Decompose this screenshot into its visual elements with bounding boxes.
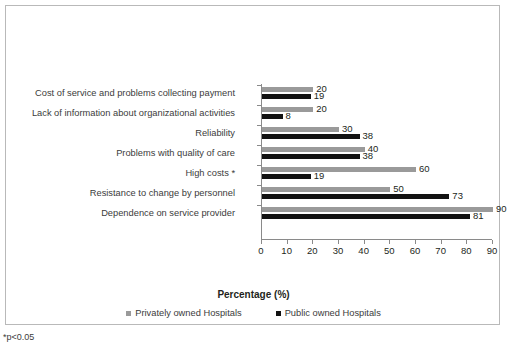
x-axis-tick-label: 70 xyxy=(435,245,446,256)
chart-category-row: Reliability3038 xyxy=(261,124,493,144)
bar-pub xyxy=(262,214,470,219)
bar-priv xyxy=(262,87,313,92)
y-axis-category-label: Dependence on service provider xyxy=(101,208,235,218)
y-axis-category-label: Lack of information about organizational… xyxy=(32,108,235,118)
significance-footnote: *p<0.05 xyxy=(3,332,34,342)
bar-pub xyxy=(262,194,449,199)
x-axis-tick xyxy=(287,240,288,244)
x-axis-tick xyxy=(261,240,262,244)
x-axis-tick xyxy=(415,240,416,244)
legend-swatch-icon-privately-owned xyxy=(126,311,131,316)
y-axis-category-label: Resistance to change by personnel xyxy=(90,188,235,198)
plot-area: 0102030405060708090 Cost of service and … xyxy=(261,84,493,240)
chart-category-row: Lack of information about organizational… xyxy=(261,104,493,124)
x-axis-tick-label: 40 xyxy=(358,245,369,256)
bar-pub xyxy=(262,174,311,179)
x-axis-tick xyxy=(312,240,313,244)
x-axis-title: Percentage (%) xyxy=(6,289,501,300)
y-axis-category-label: Reliability xyxy=(195,128,235,138)
x-axis-tick-label: 80 xyxy=(461,245,472,256)
x-axis-tick xyxy=(492,240,493,244)
bar-value-label: 50 xyxy=(393,183,404,194)
bar-pub xyxy=(262,134,360,139)
bar-pub xyxy=(262,154,360,159)
x-axis-tick-label: 0 xyxy=(258,245,263,256)
chart-category-row: Cost of service and problems collecting … xyxy=(261,84,493,104)
x-axis-tick xyxy=(338,240,339,244)
bar-value-label: 20 xyxy=(316,103,327,114)
x-axis-tick-label: 30 xyxy=(333,245,344,256)
x-axis-tick xyxy=(389,240,390,244)
x-axis-tick-label: 60 xyxy=(410,245,421,256)
legend-label-public-owned: Public owned Hospitals xyxy=(285,308,381,318)
bar-value-label: 19 xyxy=(314,170,325,181)
y-axis-category-label: Problems with quality of care xyxy=(116,148,235,158)
x-axis-tick-label: 50 xyxy=(384,245,395,256)
chart-category-row: Problems with quality of care4038 xyxy=(261,144,493,164)
x-axis-tick xyxy=(364,240,365,244)
bar-value-label: 38 xyxy=(363,130,374,141)
x-axis-tick-label: 10 xyxy=(281,245,292,256)
bar-value-label: 19 xyxy=(314,90,325,101)
bar-value-label: 60 xyxy=(419,163,430,174)
x-axis-line xyxy=(261,239,492,240)
bar-priv xyxy=(262,207,493,212)
bar-pub xyxy=(262,114,283,119)
legend-item-privately-owned-hospitals[interactable]: Privately owned Hospitals xyxy=(126,308,241,318)
bar-priv xyxy=(262,167,416,172)
bar-priv xyxy=(262,187,390,192)
bar-value-label: 30 xyxy=(342,123,353,134)
bar-pub xyxy=(262,94,311,99)
legend-item-public-owned-hospitals[interactable]: Public owned Hospitals xyxy=(276,308,381,318)
chart-category-row: High costs *6019 xyxy=(261,164,493,184)
bar-priv xyxy=(262,147,365,152)
y-axis-category-label: High costs * xyxy=(185,168,235,178)
legend-label-privately-owned: Privately owned Hospitals xyxy=(135,308,241,318)
bar-priv xyxy=(262,127,339,132)
y-axis-category-label: Cost of service and problems collecting … xyxy=(35,88,235,98)
legend-swatch-icon-public-owned xyxy=(276,311,281,316)
bar-value-label: 8 xyxy=(286,110,291,121)
chart-legend: Privately owned Hospitals Public owned H… xyxy=(6,308,501,318)
bar-value-label: 73 xyxy=(452,190,463,201)
chart-category-row: Resistance to change by personnel5073 xyxy=(261,184,493,204)
chart-figure-frame: 0102030405060708090 Cost of service and … xyxy=(5,5,500,325)
bar-value-label: 81 xyxy=(473,210,484,221)
x-axis-tick xyxy=(466,240,467,244)
x-axis-tick xyxy=(441,240,442,244)
x-axis-tick-label: 20 xyxy=(307,245,318,256)
chart-category-row: Dependence on service provider9081 xyxy=(261,204,493,224)
bar-value-label: 38 xyxy=(363,150,374,161)
x-axis-tick-label: 90 xyxy=(487,245,498,256)
bar-value-label: 90 xyxy=(496,203,507,214)
